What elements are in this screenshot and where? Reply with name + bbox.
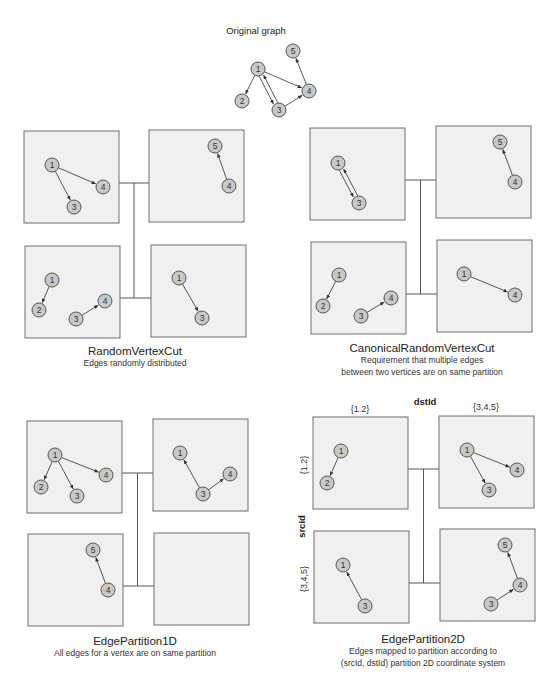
canonical-random-vertex-cut-subtitle-2: between two vertices are on same partiti… (312, 366, 532, 378)
random-vertex-cut-p1-node-4: 4 (96, 180, 110, 194)
canonical-random-vertex-cut-title: CanonicalRandomVertexCut (312, 342, 532, 354)
svg-text:1: 1 (178, 448, 183, 458)
edge-partition-2d-subtitle-1: Edges mapped to partition according to (312, 645, 534, 657)
svg-text:1: 1 (341, 560, 346, 570)
svg-text:4: 4 (513, 177, 518, 187)
canonical-random-vertex-cut-p1-node-3: 3 (352, 196, 366, 210)
canonical-random-vertex-cut-partition-2 (436, 126, 531, 218)
svg-text:2: 2 (39, 482, 44, 492)
edge-partition-2d-p1-node-2: 2 (320, 476, 334, 490)
svg-text:1: 1 (462, 269, 467, 279)
random-vertex-cut-p2-node-5: 5 (208, 139, 222, 153)
svg-text:3: 3 (201, 489, 206, 499)
edge-partition-1d-caption: EdgePartition1D All edges for a vertex a… (30, 635, 240, 659)
edge-partition-2d-p3-node-3: 3 (358, 599, 372, 613)
svg-text:3: 3 (72, 202, 77, 212)
edge-partition-1d-subtitle: All edges for a vertex are on same parti… (30, 647, 240, 659)
random-vertex-cut-p2-node-4: 4 (222, 179, 236, 193)
edge-partition-2d-subtitle-2: (srcId, dstId) partition 2D coordinate s… (312, 657, 534, 669)
edge-partition-2d-p2-node-4: 4 (510, 463, 524, 477)
edge-partition-1d-partition-4 (154, 533, 249, 625)
svg-text:4: 4 (227, 181, 232, 191)
svg-text:3: 3 (489, 599, 494, 609)
edge-partition-2d-p4-node-5: 5 (498, 538, 512, 552)
random-vertex-cut-p3-node-2: 2 (32, 303, 46, 317)
svg-text:4: 4 (106, 585, 111, 595)
src-id-axis-label: srcId (296, 507, 307, 547)
random-vertex-cut-title: RandomVertexCut (35, 345, 235, 357)
svg-text:3: 3 (277, 105, 282, 115)
svg-text:4: 4 (104, 470, 109, 480)
svg-text:1: 1 (177, 273, 182, 283)
canonical-random-vertex-cut-p4-node-4: 4 (508, 288, 522, 302)
canonical-random-vertex-cut-p3-node-4: 4 (384, 291, 398, 305)
svg-text:4: 4 (103, 296, 108, 306)
svg-text:2: 2 (321, 301, 326, 311)
edge-partition-1d-p2-node-1: 1 (173, 446, 187, 460)
random-vertex-cut-p1-node-1: 1 (45, 158, 59, 172)
src-row-label-1: {1.2} (299, 445, 309, 485)
svg-text:5: 5 (503, 540, 508, 550)
dst-col-label-1: {1.2} (340, 404, 380, 414)
edge-partition-1d-p1-node-3: 3 (70, 489, 84, 503)
edge-partition-1d-p1-node-2: 2 (34, 480, 48, 494)
canonical-random-vertex-cut-partition-4 (437, 240, 532, 332)
original-edge-4-5 (296, 58, 306, 84)
svg-text:1: 1 (339, 446, 344, 456)
canonical-random-vertex-cut-p3-node-3: 3 (354, 309, 368, 323)
canonical-random-vertex-cut-p2-node-5: 5 (493, 135, 507, 149)
edge-partition-1d-p2-node-4: 4 (223, 467, 237, 481)
svg-text:1: 1 (337, 270, 342, 280)
edge-partition-1d-p3-node-4: 4 (101, 583, 115, 597)
svg-text:3: 3 (487, 485, 492, 495)
original-node-3: 3 (272, 103, 286, 117)
edge-partition-1d-p1-node-1: 1 (48, 448, 62, 462)
svg-text:4: 4 (228, 469, 233, 479)
random-vertex-cut-p3-node-4: 4 (98, 294, 112, 308)
svg-text:3: 3 (359, 311, 364, 321)
random-vertex-cut-p1-node-3: 3 (67, 200, 81, 214)
dst-id-axis-label: dstId (405, 396, 445, 407)
svg-text:1: 1 (256, 64, 261, 74)
random-vertex-cut-p4-node-1: 1 (172, 271, 186, 285)
edge-partition-2d-p2-node-3: 3 (482, 483, 496, 497)
random-vertex-cut-caption: RandomVertexCut Edges randomly distribut… (35, 345, 235, 369)
svg-text:5: 5 (498, 137, 503, 147)
canonical-random-vertex-cut-p3-node-2: 2 (316, 299, 330, 313)
svg-text:4: 4 (389, 293, 394, 303)
edge-partition-2d-p4-node-4: 4 (513, 578, 527, 592)
svg-text:3: 3 (363, 601, 368, 611)
random-vertex-cut-p3-node-1: 1 (45, 273, 59, 287)
original-node-5: 5 (286, 44, 300, 58)
svg-text:2: 2 (37, 305, 42, 315)
random-vertex-cut-subtitle: Edges randomly distributed (35, 357, 235, 369)
svg-text:2: 2 (325, 478, 330, 488)
edge-partition-1d-p1-node-4: 4 (99, 468, 113, 482)
canonical-random-vertex-cut-p1-node-1: 1 (331, 156, 345, 170)
svg-text:4: 4 (307, 86, 312, 96)
svg-text:4: 4 (513, 290, 518, 300)
edge-partition-1d-p2-node-3: 3 (196, 487, 210, 501)
canonical-random-vertex-cut-p4-node-1: 1 (457, 267, 471, 281)
random-vertex-cut-p3-node-3: 3 (69, 312, 83, 326)
edge-partition-2d-p4-node-3: 3 (484, 597, 498, 611)
svg-text:5: 5 (291, 46, 296, 56)
random-vertex-cut-p4-node-3: 3 (195, 311, 209, 325)
edge-partition-1d-p3-node-5: 5 (86, 543, 100, 557)
original-node-1: 1 (251, 62, 265, 76)
edge-partition-2d-p3-node-1: 1 (336, 558, 350, 572)
original-node-2: 2 (235, 94, 249, 108)
canonical-random-vertex-cut-subtitle-1: Requirement that multiple edges (312, 354, 532, 366)
svg-text:2: 2 (240, 96, 245, 106)
src-row-label-2: {3,4,5} (299, 559, 309, 599)
original-edge-3-4 (285, 95, 302, 106)
original-node-4: 4 (302, 84, 316, 98)
svg-text:1: 1 (465, 445, 470, 455)
edge-partition-1d-title: EdgePartition1D (30, 635, 240, 647)
canonical-random-vertex-cut-p3-node-1: 1 (332, 268, 346, 282)
svg-text:4: 4 (515, 465, 520, 475)
svg-text:1: 1 (50, 275, 55, 285)
svg-text:1: 1 (53, 450, 58, 460)
edge-partition-2d-partition-1 (313, 417, 408, 509)
original-edge-1-4 (264, 72, 301, 88)
